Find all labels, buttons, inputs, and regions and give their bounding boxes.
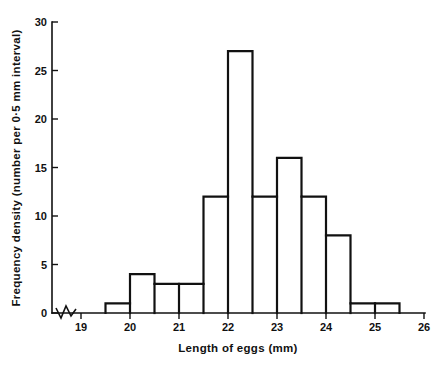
- x-tick-label-25: 25: [369, 321, 381, 333]
- x-tick-label-19: 19: [75, 321, 87, 333]
- y-tick-label-5: 5: [41, 259, 47, 271]
- x-axis-break-icon: [56, 306, 76, 318]
- y-tick-label-20: 20: [35, 113, 47, 125]
- x-tick-label-23: 23: [271, 321, 283, 333]
- y-tick-label-15: 15: [35, 162, 47, 174]
- y-tick-label-0: 0: [41, 307, 47, 319]
- y-axis-title: Frequency density (number per 0·5 mm int…: [10, 29, 22, 306]
- y-tick-label-25: 25: [35, 65, 47, 77]
- chart-page: 0 5 10 15 20 25 30 19 20 21 22 23 24 25 …: [0, 0, 444, 375]
- x-tick-label-26: 26: [418, 321, 430, 333]
- x-tick-label-24: 24: [320, 321, 333, 333]
- x-tick-label-21: 21: [173, 321, 185, 333]
- y-tick-label-30: 30: [35, 16, 47, 28]
- histogram-bars: [106, 51, 400, 313]
- y-tick-label-10: 10: [35, 210, 47, 222]
- y-tick-marks: [52, 22, 58, 313]
- x-tick-label-20: 20: [124, 321, 136, 333]
- x-tick-label-22: 22: [222, 321, 234, 333]
- x-axis-title: Length of eggs (mm): [178, 342, 297, 354]
- egg-length-histogram: 0 5 10 15 20 25 30 19 20 21 22 23 24 25 …: [0, 0, 444, 375]
